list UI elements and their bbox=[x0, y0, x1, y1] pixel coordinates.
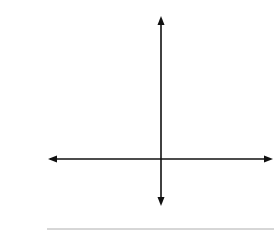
x-axis-right-arrow-icon bbox=[264, 156, 273, 163]
y-axis-down-arrow-icon bbox=[158, 197, 165, 206]
y-axis-up-arrow-icon bbox=[158, 16, 165, 25]
axes bbox=[48, 16, 273, 206]
x-axis-left-arrow-icon bbox=[48, 156, 57, 163]
graph bbox=[0, 0, 276, 230]
